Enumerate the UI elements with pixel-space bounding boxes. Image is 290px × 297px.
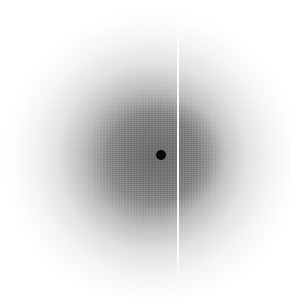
central-spot xyxy=(156,150,166,160)
scattering-image xyxy=(0,0,290,297)
vertical-streak xyxy=(177,18,179,286)
grain-texture xyxy=(0,0,290,297)
